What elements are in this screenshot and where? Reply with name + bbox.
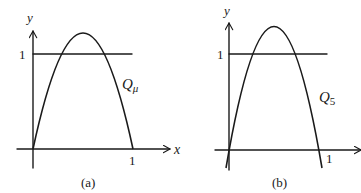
panel-a-y-tick-1: 1: [19, 47, 26, 62]
panel-b-x-tick-1: 1: [326, 151, 333, 166]
panel-a-x-tick-1: 1: [129, 153, 136, 168]
panel-a-x-label: x: [173, 142, 181, 157]
panel-b-y-tick-1: 1: [217, 47, 224, 62]
panel-a-caption: (a): [81, 175, 95, 190]
panel-b-y-label: y: [222, 3, 230, 18]
panel-b-curve-label: Q5: [319, 89, 336, 107]
panel-b-parabola: [226, 27, 322, 169]
panel-a-curve-label: Qμ: [122, 76, 139, 94]
panel-a: y x 1 1 Qμ (a): [17, 10, 181, 190]
panel-b: y 1 1 Q5 (b): [215, 3, 361, 190]
panel-a-y-label: y: [25, 10, 33, 25]
panel-b-caption: (b): [272, 175, 287, 190]
panel-a-parabola: [33, 33, 133, 149]
figure: y x 1 1 Qμ (a) y 1 1 Q5 (b): [0, 0, 361, 193]
